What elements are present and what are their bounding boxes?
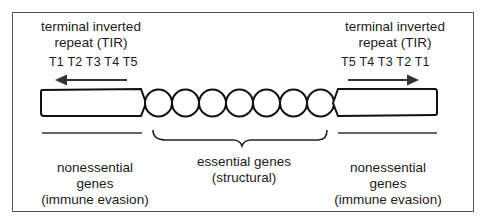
essential-genes-brace — [153, 130, 327, 146]
right-region-line1: nonessential — [329, 160, 447, 176]
center-region-line1: essential genes — [186, 154, 302, 170]
left-region-line1: nonessential — [36, 160, 154, 176]
left-region-line3: (immune evasion) — [36, 192, 154, 208]
left-region-label: nonessential genes (immune evasion) — [36, 160, 154, 208]
left-region-line2: genes — [36, 176, 154, 192]
right-region-label: nonessential genes (immune evasion) — [329, 160, 447, 208]
left-tir-bar — [41, 89, 146, 116]
center-region-line2: (structural) — [186, 170, 302, 186]
essential-gene-circles — [145, 90, 334, 117]
left-arrow-icon — [55, 75, 127, 86]
right-tir-bar — [333, 89, 437, 116]
right-region-line2: genes — [329, 176, 447, 192]
right-arrow-icon — [348, 75, 419, 86]
center-region-label: essential genes (structural) — [186, 154, 302, 186]
right-region-line3: (immune evasion) — [329, 192, 447, 208]
